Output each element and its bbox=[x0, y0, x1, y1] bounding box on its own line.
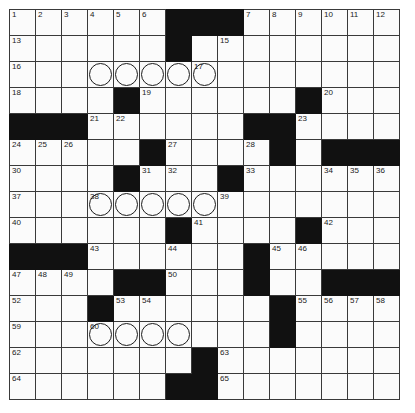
crossword-cell[interactable] bbox=[218, 296, 244, 322]
crossword-cell[interactable]: 34 bbox=[322, 166, 348, 192]
crossword-cell[interactable]: 23 bbox=[296, 114, 322, 140]
crossword-cell[interactable]: 57 bbox=[348, 296, 374, 322]
crossword-cell[interactable]: 50 bbox=[166, 270, 192, 296]
crossword-cell[interactable] bbox=[114, 36, 140, 62]
crossword-cell[interactable] bbox=[192, 36, 218, 62]
crossword-cell[interactable]: 45 bbox=[270, 244, 296, 270]
crossword-cell[interactable]: 7 bbox=[244, 10, 270, 36]
crossword-cell[interactable] bbox=[140, 348, 166, 374]
crossword-cell[interactable] bbox=[88, 62, 114, 88]
crossword-cell[interactable]: 26 bbox=[62, 140, 88, 166]
crossword-cell[interactable] bbox=[296, 270, 322, 296]
crossword-cell[interactable] bbox=[192, 166, 218, 192]
crossword-cell[interactable] bbox=[218, 114, 244, 140]
crossword-cell[interactable]: 12 bbox=[374, 10, 400, 36]
crossword-cell[interactable] bbox=[270, 348, 296, 374]
crossword-cell[interactable] bbox=[322, 114, 348, 140]
crossword-cell[interactable]: 44 bbox=[166, 244, 192, 270]
crossword-cell[interactable] bbox=[36, 296, 62, 322]
crossword-cell[interactable] bbox=[322, 322, 348, 348]
crossword-cell[interactable]: 55 bbox=[296, 296, 322, 322]
crossword-cell[interactable] bbox=[62, 88, 88, 114]
crossword-cell[interactable] bbox=[270, 270, 296, 296]
crossword-cell[interactable]: 27 bbox=[166, 140, 192, 166]
crossword-cell[interactable] bbox=[166, 348, 192, 374]
crossword-cell[interactable] bbox=[192, 322, 218, 348]
crossword-cell[interactable]: 40 bbox=[10, 218, 36, 244]
crossword-cell[interactable] bbox=[114, 244, 140, 270]
crossword-cell[interactable]: 48 bbox=[36, 270, 62, 296]
crossword-cell[interactable] bbox=[192, 192, 218, 218]
crossword-cell[interactable] bbox=[192, 114, 218, 140]
crossword-cell[interactable] bbox=[322, 374, 348, 400]
crossword-cell[interactable] bbox=[270, 36, 296, 62]
crossword-cell[interactable]: 2 bbox=[36, 10, 62, 36]
crossword-cell[interactable] bbox=[36, 88, 62, 114]
crossword-cell[interactable]: 52 bbox=[10, 296, 36, 322]
crossword-cell[interactable] bbox=[348, 62, 374, 88]
crossword-cell[interactable] bbox=[114, 218, 140, 244]
crossword-cell[interactable] bbox=[88, 88, 114, 114]
crossword-cell[interactable] bbox=[140, 62, 166, 88]
crossword-cell[interactable]: 56 bbox=[322, 296, 348, 322]
crossword-cell[interactable] bbox=[166, 322, 192, 348]
crossword-cell[interactable] bbox=[114, 192, 140, 218]
crossword-cell[interactable] bbox=[114, 140, 140, 166]
crossword-cell[interactable] bbox=[348, 348, 374, 374]
crossword-cell[interactable] bbox=[296, 192, 322, 218]
crossword-cell[interactable] bbox=[270, 62, 296, 88]
crossword-cell[interactable]: 42 bbox=[322, 218, 348, 244]
crossword-cell[interactable]: 6 bbox=[140, 10, 166, 36]
crossword-cell[interactable] bbox=[322, 36, 348, 62]
crossword-cell[interactable] bbox=[166, 296, 192, 322]
crossword-cell[interactable]: 30 bbox=[10, 166, 36, 192]
crossword-cell[interactable] bbox=[244, 218, 270, 244]
crossword-cell[interactable] bbox=[62, 192, 88, 218]
crossword-cell[interactable]: 3 bbox=[62, 10, 88, 36]
crossword-cell[interactable] bbox=[36, 348, 62, 374]
crossword-cell[interactable] bbox=[322, 62, 348, 88]
crossword-cell[interactable] bbox=[296, 140, 322, 166]
crossword-cell[interactable] bbox=[114, 322, 140, 348]
crossword-cell[interactable]: 59 bbox=[10, 322, 36, 348]
crossword-cell[interactable] bbox=[296, 374, 322, 400]
crossword-cell[interactable] bbox=[244, 88, 270, 114]
crossword-cell[interactable] bbox=[36, 36, 62, 62]
crossword-cell[interactable] bbox=[88, 140, 114, 166]
crossword-cell[interactable]: 8 bbox=[270, 10, 296, 36]
crossword-cell[interactable] bbox=[374, 62, 400, 88]
crossword-cell[interactable]: 62 bbox=[10, 348, 36, 374]
crossword-cell[interactable] bbox=[140, 36, 166, 62]
crossword-cell[interactable]: 35 bbox=[348, 166, 374, 192]
crossword-cell[interactable] bbox=[88, 218, 114, 244]
crossword-cell[interactable] bbox=[166, 62, 192, 88]
crossword-cell[interactable] bbox=[296, 322, 322, 348]
crossword-cell[interactable]: 39 bbox=[218, 192, 244, 218]
crossword-cell[interactable] bbox=[62, 348, 88, 374]
crossword-cell[interactable] bbox=[348, 88, 374, 114]
crossword-cell[interactable] bbox=[218, 244, 244, 270]
crossword-cell[interactable] bbox=[270, 166, 296, 192]
crossword-cell[interactable]: 24 bbox=[10, 140, 36, 166]
crossword-cell[interactable] bbox=[244, 374, 270, 400]
crossword-cell[interactable]: 15 bbox=[218, 36, 244, 62]
crossword-cell[interactable] bbox=[348, 36, 374, 62]
crossword-cell[interactable] bbox=[114, 62, 140, 88]
crossword-cell[interactable] bbox=[62, 62, 88, 88]
crossword-cell[interactable] bbox=[36, 218, 62, 244]
crossword-cell[interactable] bbox=[218, 270, 244, 296]
crossword-cell[interactable] bbox=[218, 62, 244, 88]
crossword-cell[interactable]: 32 bbox=[166, 166, 192, 192]
crossword-cell[interactable] bbox=[244, 36, 270, 62]
crossword-cell[interactable] bbox=[62, 218, 88, 244]
crossword-cell[interactable] bbox=[296, 62, 322, 88]
crossword-cell[interactable]: 33 bbox=[244, 166, 270, 192]
crossword-cell[interactable]: 13 bbox=[10, 36, 36, 62]
crossword-cell[interactable]: 64 bbox=[10, 374, 36, 400]
crossword-cell[interactable] bbox=[348, 218, 374, 244]
crossword-cell[interactable] bbox=[348, 374, 374, 400]
crossword-cell[interactable] bbox=[374, 348, 400, 374]
crossword-cell[interactable] bbox=[296, 36, 322, 62]
crossword-cell[interactable] bbox=[62, 322, 88, 348]
crossword-cell[interactable]: 20 bbox=[322, 88, 348, 114]
